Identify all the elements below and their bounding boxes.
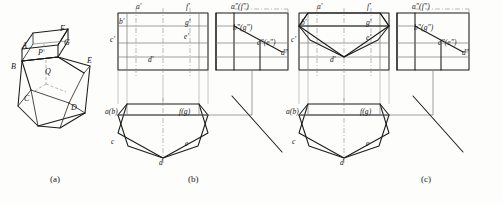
- page-footnote: [150, 192, 370, 202]
- c-top-label-fg: f(g): [360, 107, 371, 116]
- c-front-label-g-prime: g': [366, 18, 372, 27]
- caption-a: (a): [50, 174, 60, 184]
- figure-canvas: .o { fill:none; stroke:#1a1a1a; stroke-w…: [0, 0, 503, 203]
- c-front-label-a-prime: a': [317, 2, 323, 11]
- vertex-label-q: Q: [45, 67, 51, 76]
- c-front-label-b-prime: b': [301, 18, 307, 27]
- c-front-label-e-prime: e': [366, 33, 371, 42]
- c-top-label-c: c: [292, 137, 295, 146]
- c-side-label-a-f: a"(f"): [412, 2, 430, 11]
- vertex-label-g: G: [64, 38, 70, 47]
- c-top-label-e: e: [366, 139, 369, 148]
- b-side-label-c-e: c"(e"): [257, 38, 276, 47]
- views-c: [299, 8, 469, 165]
- b-front-label-f-prime: f': [186, 2, 190, 11]
- b-front-label-c-prime: c': [110, 35, 115, 44]
- c-front-label-d-prime: d': [330, 55, 336, 64]
- b-side-label-a-f: a"(f"): [231, 2, 249, 11]
- c-front-label-c-prime: c': [291, 35, 296, 44]
- vertex-label-a: A: [22, 41, 27, 50]
- views-b: [118, 8, 288, 165]
- b-top-label-fg: f(g): [179, 107, 190, 116]
- c-top-label-d: d: [340, 158, 344, 167]
- c-side-label-b-g: b"(g"): [414, 23, 433, 32]
- b-side-label-d: d": [281, 48, 288, 57]
- b-top-label-ab: a(b): [105, 107, 118, 116]
- c-side-label-c-e: c"(e"): [438, 38, 457, 47]
- vertex-label-f: F: [60, 24, 65, 33]
- b-side-label-b-g: b"(g"): [233, 23, 252, 32]
- b-front-label-b-prime: b': [119, 17, 125, 26]
- c-front-label-f-prime: f': [367, 2, 371, 11]
- b-top-label-c: c: [111, 137, 114, 146]
- b-top-label-d: d: [159, 158, 163, 167]
- vertex-label-b: B: [11, 62, 16, 71]
- vertex-label-c: C: [24, 94, 29, 103]
- b-front-label-a-prime: a': [136, 2, 142, 11]
- b-front-label-d-prime: d': [148, 55, 154, 64]
- isometric-solid: [18, 29, 90, 128]
- vertex-label-e: E: [87, 56, 92, 65]
- vertex-label-d: D: [71, 103, 77, 112]
- b-top-label-e: e: [185, 139, 188, 148]
- c-side-label-d: d": [462, 48, 469, 57]
- b-front-label-e-prime: e': [184, 32, 189, 41]
- caption-b: (b): [188, 174, 199, 184]
- c-top-label-ab: a(b): [286, 107, 299, 116]
- caption-c: (c): [421, 174, 431, 184]
- vertex-label-p: P: [38, 48, 43, 57]
- b-front-label-g-prime: g': [185, 18, 191, 27]
